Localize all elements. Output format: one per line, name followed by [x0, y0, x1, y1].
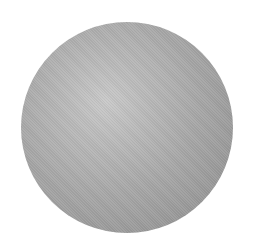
- sphere-texture: [21, 22, 233, 233]
- gray-sphere: [21, 22, 233, 233]
